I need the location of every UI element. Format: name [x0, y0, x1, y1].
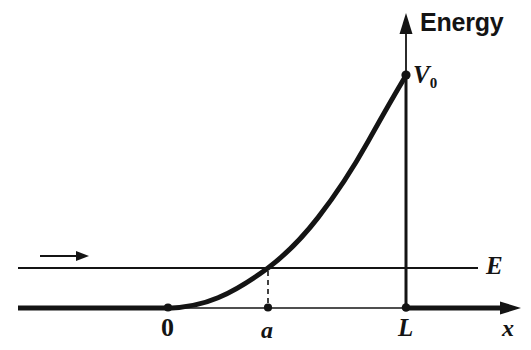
- turning-point-tick-label: a: [261, 318, 273, 342]
- barrier-height-subscript: 0: [430, 75, 438, 91]
- figure-canvas: [0, 0, 531, 350]
- barrier-edge-dot: [402, 303, 411, 312]
- origin-dot: [164, 303, 172, 311]
- energy-axis-arrowhead: [400, 13, 413, 34]
- barrier-height-symbol: V: [413, 61, 430, 88]
- x-axis-arrowhead: [500, 302, 521, 315]
- potential-energy-curve: [168, 76, 406, 309]
- potential-barrier-figure: Energy V0 E x 0 a L: [0, 0, 531, 350]
- turning-point-dot: [264, 303, 272, 311]
- barrier-edge-tick-label: L: [398, 315, 413, 340]
- energy-level-label: E: [486, 253, 503, 278]
- energy-axis-label: Energy: [420, 10, 504, 35]
- barrier-top-dot: [401, 70, 410, 79]
- barrier-height-label: V0: [413, 62, 437, 87]
- incident-particle-arrowhead: [76, 251, 89, 261]
- x-axis-label: x: [502, 316, 514, 340]
- origin-tick-label: 0: [161, 315, 174, 341]
